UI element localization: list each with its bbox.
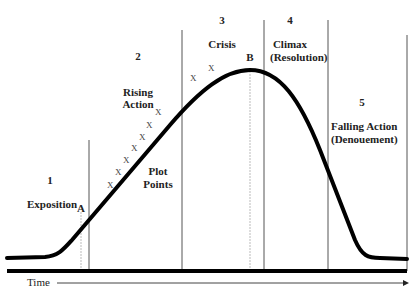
plot-point-mark: X [131,144,138,153]
stage-2-number: 2 [132,50,144,62]
stage-5-label-line2: (Denouement) [331,133,395,145]
plot-points-label-line1: Plot [144,165,172,177]
stage-4-label-line2: (Resolution) [270,51,326,63]
plot-point-mark: X [208,64,215,73]
marker-b: B [245,51,255,63]
stage-5-number: 5 [356,96,368,108]
stage-2-label-line1: Rising [120,86,156,98]
stage-3-number: 3 [216,14,228,26]
plot-point-mark: X [123,156,130,165]
stage-4-label-line1: Climax [270,38,310,50]
stage-2-label-line2: Action [119,98,157,110]
plot-point-mark: X [139,133,146,142]
stage-1-number: 1 [44,174,56,186]
time-axis-label: Time [27,276,50,288]
time-arrow-head-icon [403,280,409,286]
stage-5-label-line1: Falling Action [331,120,395,132]
plot-point-mark: X [107,181,114,190]
stage-4-number: 4 [284,14,296,26]
plot-point-mark: X [155,108,162,117]
stage-3-label: Crisis [206,38,238,50]
stage-1-label: Exposition [24,198,80,210]
plot-curve [7,70,407,259]
plot-point-mark: X [115,168,122,177]
marker-a: A [76,202,86,214]
plot-points-label-line2: Points [140,178,176,190]
plot-point-mark: X [146,121,153,130]
plot-point-mark: X [190,74,197,83]
